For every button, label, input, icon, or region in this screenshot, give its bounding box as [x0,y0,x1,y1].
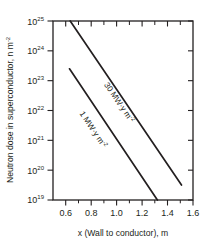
y-tick-label-19: 1019 [27,194,44,205]
x-tick-labels: 0.6 0.8 1.0 1.2 1.4 1.6 [59,208,199,218]
y-tick-label-23: 1023 [27,75,44,86]
x-axis-top-ticks [66,21,181,27]
x-tick-label-1.4: 1.4 [161,208,174,218]
y-tick-label-21: 1021 [27,135,44,146]
series-label-1mw: 1 MW·y m-2 [78,109,110,150]
chart-figure: 1025 1024 1023 1022 1021 1020 1019 [0,0,208,250]
x-axis-ticks [66,200,193,206]
y-tick-labels: 1025 1024 1023 1022 1021 1020 1019 [27,16,44,206]
y-axis-title: Neutron dose in superconductor, n m-2 [5,37,15,183]
y-tick-label-24: 1024 [27,45,44,56]
x-tick-label-1.0: 1.0 [110,208,123,218]
x-axis-title: x (Wall to conductor), m [78,228,168,238]
x-tick-label-0.6: 0.6 [59,208,72,218]
y-axis-ticks [48,21,54,200]
series-annotations: 30 MW·y m-2 1 MW·y m-2 [78,80,137,150]
series-label-30mw: 30 MW·y m-2 [102,80,137,124]
x-tick-label-1.6: 1.6 [187,208,200,218]
y-axis-right-ticks [188,21,193,200]
x-tick-label-0.8: 0.8 [85,208,98,218]
y-tick-label-22: 1022 [27,105,44,116]
y-tick-label-25: 1025 [27,16,44,27]
chart-svg: 1025 1024 1023 1022 1021 1020 1019 [0,0,208,250]
y-tick-label-20: 1020 [27,165,44,176]
x-tick-label-1.2: 1.2 [136,208,149,218]
